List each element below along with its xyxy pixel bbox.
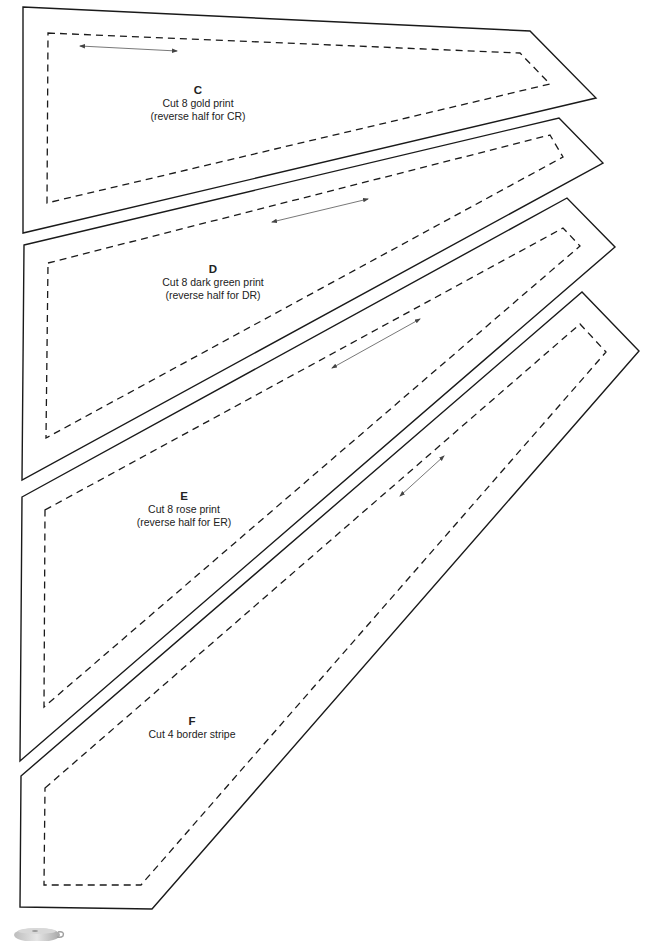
pattern-piece-e bbox=[20, 198, 615, 761]
grainline-arrow-icon bbox=[80, 46, 177, 51]
piece-letter: D bbox=[162, 263, 264, 276]
piece-letter: E bbox=[137, 490, 232, 503]
cut-instruction: Cut 8 gold print bbox=[150, 97, 245, 110]
reverse-note: (reverse half for ER) bbox=[137, 516, 232, 529]
piece-label-e: E Cut 8 rose print (reverse half for ER) bbox=[137, 490, 232, 529]
pattern-piece-d bbox=[22, 118, 603, 480]
seam-line bbox=[47, 33, 550, 203]
pattern-canvas bbox=[0, 0, 663, 941]
reverse-note: (reverse half for DR) bbox=[162, 289, 264, 302]
piece-letter: F bbox=[149, 715, 236, 728]
seam-line bbox=[44, 324, 606, 885]
seam-line bbox=[44, 228, 580, 707]
grainline-arrow-icon bbox=[400, 456, 444, 496]
cutting-line bbox=[22, 118, 603, 480]
piece-label-f: F Cut 4 border stripe bbox=[149, 715, 236, 741]
cut-instruction: Cut 8 dark green print bbox=[162, 276, 264, 289]
cutting-line bbox=[20, 292, 639, 909]
cutting-line bbox=[20, 198, 615, 761]
teacup-icon bbox=[12, 927, 66, 941]
grainline-arrow-icon bbox=[332, 319, 420, 368]
pattern-piece-c bbox=[23, 7, 596, 233]
piece-label-c: C Cut 8 gold print (reverse half for CR) bbox=[150, 84, 245, 123]
cut-instruction: Cut 4 border stripe bbox=[149, 728, 236, 741]
piece-label-d: D Cut 8 dark green print (reverse half f… bbox=[162, 263, 264, 302]
pattern-piece-f bbox=[20, 292, 639, 909]
cutting-line bbox=[23, 7, 596, 233]
seam-line bbox=[46, 135, 563, 438]
cut-instruction: Cut 8 rose print bbox=[137, 503, 232, 516]
piece-letter: C bbox=[150, 84, 245, 97]
reverse-note: (reverse half for CR) bbox=[150, 110, 245, 123]
